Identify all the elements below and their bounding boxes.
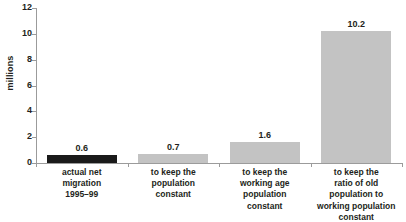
category-label-line: working age bbox=[219, 178, 311, 189]
category-label-line: working population bbox=[311, 201, 403, 212]
category-label-line: constant bbox=[128, 189, 220, 200]
y-axis-tick-mark bbox=[32, 60, 36, 61]
bar[interactable]: 1.6 bbox=[230, 142, 300, 163]
bar[interactable]: 0.6 bbox=[47, 155, 117, 163]
category-label-line: 1995–99 bbox=[36, 189, 128, 200]
category-label-line: population bbox=[219, 189, 311, 200]
x-axis-category-label: to keep theratio of oldpopulation towork… bbox=[311, 167, 403, 222]
category-label-line: population to bbox=[311, 189, 403, 200]
category-label-line: actual net bbox=[36, 167, 128, 178]
bar-value-label: 0.7 bbox=[167, 142, 180, 152]
category-label-line: population bbox=[128, 178, 220, 189]
category-label-line: to keep the bbox=[219, 167, 311, 178]
bar-value-label: 0.6 bbox=[75, 143, 88, 153]
y-axis-tick-mark bbox=[32, 86, 36, 87]
y-axis-tick-label: 8 bbox=[27, 54, 32, 64]
category-label-line: constant bbox=[219, 201, 311, 212]
y-axis-tick-label: 12 bbox=[22, 2, 32, 12]
category-label-line: to keep the bbox=[128, 167, 220, 178]
bar[interactable]: 10.2 bbox=[321, 31, 391, 163]
y-axis-tick-label: 4 bbox=[27, 105, 32, 115]
plot-area: 024681012 0.60.71.610.2 bbox=[36, 8, 402, 163]
y-axis-tick-label: 10 bbox=[22, 28, 32, 38]
y-axis-tick-mark bbox=[32, 137, 36, 138]
bar[interactable]: 0.7 bbox=[138, 154, 208, 163]
bar-value-label: 10.2 bbox=[347, 19, 365, 29]
y-axis-tick-label: 6 bbox=[27, 80, 32, 90]
y-axis-title: millions bbox=[5, 37, 15, 109]
y-axis-tick-label: 2 bbox=[27, 131, 32, 141]
category-label-line: migration bbox=[36, 178, 128, 189]
bar-chart: millions 024681012 0.60.71.610.2 actual … bbox=[0, 0, 406, 222]
category-label-line: ratio of old bbox=[311, 178, 403, 189]
bar-value-label: 1.6 bbox=[258, 130, 271, 140]
y-axis-tick-mark bbox=[32, 34, 36, 35]
category-label-line: to keep the bbox=[311, 167, 403, 178]
y-axis-tick-mark bbox=[32, 8, 36, 9]
y-axis-line bbox=[36, 8, 37, 163]
x-axis-category-label: to keep thepopulationconstant bbox=[128, 167, 220, 201]
x-axis-category-label: actual netmigration1995–99 bbox=[36, 167, 128, 201]
x-axis-tick-mark bbox=[402, 163, 403, 167]
category-label-line: constant bbox=[311, 212, 403, 222]
y-axis-tick-mark bbox=[32, 111, 36, 112]
y-axis-tick-label: 0 bbox=[27, 157, 32, 167]
x-axis-category-label: to keep theworking agepopulationconstant bbox=[219, 167, 311, 212]
